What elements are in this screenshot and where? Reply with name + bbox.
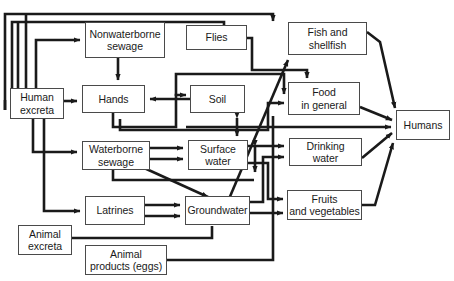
node-latrines[interactable]: Latrines [85,196,145,225]
node-human-excreta[interactable]: Human excreta [10,88,64,119]
edge-human-excreta-to-waterborne-sewage [33,119,77,152]
edge-animal-excreta-to-groundwater [72,225,213,238]
node-surface-water[interactable]: Surface water [188,140,248,170]
node-food-in-general[interactable]: Food in general [288,82,360,115]
node-drinking-water[interactable]: Drinking water [289,138,362,166]
edge-waterborne-sewage-to-surface-water [150,148,183,159]
node-animal-products-eggs[interactable]: Animal products (eggs) [85,245,167,275]
node-groundwater[interactable]: Groundwater [185,196,250,225]
node-fruits-and-vegetables[interactable]: Fruits and vegetables [287,190,362,220]
node-soil[interactable]: Soil [190,85,245,113]
edge-surface-water-to-fish-and-shellfish [222,60,288,213]
node-fish-and-shellfish[interactable]: Fish and shellfish [288,22,367,55]
node-flies[interactable]: Flies [186,25,247,50]
edge-human-excreta-to-nonwaterborne-sewage [36,40,80,88]
edge-food-in-general-to-humans [360,107,392,120]
f-diagram-canvas: .w { fill:none; stroke:#1a1a1a; stroke-w… [0,0,454,281]
edge-human-excreta-to-latrines [44,119,80,211]
node-waterborne-sewage[interactable]: Waterborne sewage [82,141,150,170]
node-hands[interactable]: Hands [82,85,145,113]
node-animal-excreta[interactable]: Animal excreta [18,225,72,255]
edge-fish-and-shellfish-to-humans [367,32,395,108]
node-nonwaterborne-sewage[interactable]: Nonwaterborne sewage [85,22,165,58]
edge-latrines-to-groundwater [145,205,180,216]
edge-left-risers [18,14,26,88]
edge-fruits-and-vegetables-to-humans [362,143,393,205]
edge-drinking-water-to-humans [362,133,392,158]
node-humans[interactable]: Humans [396,110,450,140]
edge-surface-water-groundwater-bidirectional [255,146,258,172]
